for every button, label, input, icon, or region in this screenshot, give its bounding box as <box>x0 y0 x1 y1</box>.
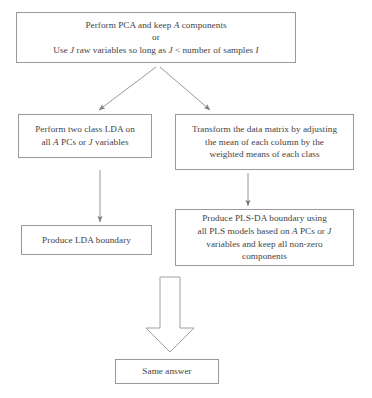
edge-plsda-to-same-answer <box>146 277 194 352</box>
node-perform-lda: Perform two class LDA onall A PCs or J v… <box>18 114 152 158</box>
flowchart-canvas: Perform PCA and keep A componentsorUse J… <box>0 0 372 398</box>
node-perform-lda-label: Perform two class LDA onall A PCs or J v… <box>23 123 147 148</box>
node-produce-plsda-boundary: Produce PLS-DA boundary usingall PLS mod… <box>175 209 354 266</box>
node-start-pca-label: Perform PCA and keep A componentsorUse J… <box>21 19 291 57</box>
node-produce-lda-boundary: Produce LDA boundary <box>21 225 152 255</box>
node-transform-data-matrix: Transform the data matrix by adjustingth… <box>175 114 354 170</box>
edge-start-to-transform <box>160 67 210 110</box>
node-same-answer: Same answer <box>115 359 219 384</box>
edge-start-to-lda <box>99 67 156 110</box>
node-same-answer-label: Same answer <box>120 365 214 378</box>
node-produce-plsda-boundary-label: Produce PLS-DA boundary usingall PLS mod… <box>180 212 349 262</box>
node-produce-lda-boundary-label: Produce LDA boundary <box>26 234 147 247</box>
node-start-pca: Perform PCA and keep A componentsorUse J… <box>16 12 296 63</box>
node-transform-data-matrix-label: Transform the data matrix by adjustingth… <box>180 123 349 161</box>
